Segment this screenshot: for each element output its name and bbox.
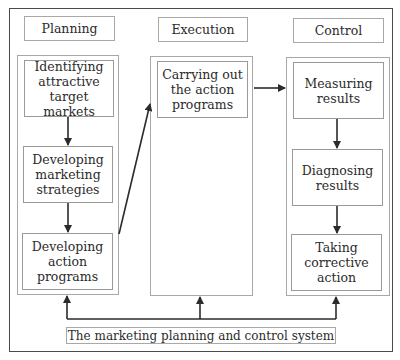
arrow-planning-to-execution bbox=[119, 104, 150, 234]
connector-arrows bbox=[0, 0, 400, 360]
